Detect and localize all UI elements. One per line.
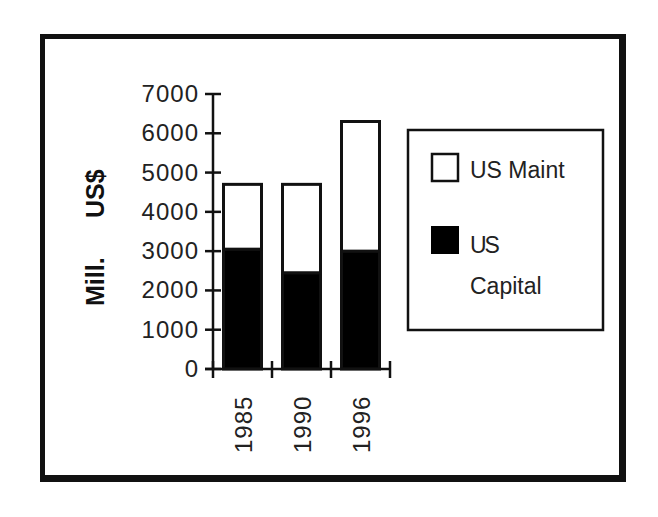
y-tick-label: 1000 (142, 316, 199, 343)
legend-swatch-us-capital (431, 226, 459, 254)
x-axis: 198519901996 (205, 361, 390, 453)
legend-label-us-capital-line2: Capital (470, 273, 542, 299)
y-tick-label: 4000 (142, 198, 199, 225)
bar-segment-us-maint (342, 122, 380, 252)
y-tick-label: 3000 (142, 237, 199, 264)
y-tick-label: 2000 (142, 276, 199, 303)
x-tick-label: 1996 (348, 396, 375, 453)
bar-group-1990 (283, 184, 321, 369)
x-tick-label: 1990 (289, 396, 316, 453)
y-tick-label: 6000 (142, 119, 199, 146)
legend: US MaintUSCapital (408, 130, 603, 330)
bar-group-1996 (342, 122, 380, 370)
y-axis: 01000200030004000500060007000 (142, 80, 221, 382)
bar-group-1985 (224, 184, 262, 369)
legend-label-us-maint: US Maint (470, 157, 565, 183)
y-tick-label: 5000 (142, 159, 199, 186)
bar-segment-us-maint (224, 184, 262, 249)
bar-segment-us-maint (283, 184, 321, 272)
y-tick-label: 7000 (142, 80, 199, 107)
legend-swatch-us-maint (432, 154, 458, 181)
bar-segment-us-capital (283, 273, 321, 369)
legend-label-us-capital-line1: US (470, 232, 500, 258)
y-tick-label: 0 (185, 355, 199, 382)
bars (224, 122, 380, 370)
stacked-bar-chart: Mill. US$ 01000200030004000500060007000 … (0, 0, 658, 517)
bar-segment-us-capital (224, 249, 262, 369)
y-axis-label-part2: US$ (81, 169, 109, 218)
bar-segment-us-capital (342, 251, 380, 369)
y-axis-label-part1: Mill. (81, 257, 109, 306)
x-tick-label: 1985 (230, 396, 257, 453)
